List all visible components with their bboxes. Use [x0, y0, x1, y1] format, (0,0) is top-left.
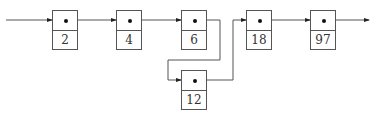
- pointer-dot-icon: [128, 19, 132, 23]
- pointer-dot-icon: [322, 19, 326, 23]
- node-value: 2: [53, 31, 77, 50]
- node-value: 4: [117, 31, 141, 50]
- node-value: 6: [182, 31, 206, 50]
- node-value: 97: [311, 31, 335, 50]
- list-node-97: 97: [310, 10, 336, 50]
- pointer-dot-icon: [193, 79, 197, 83]
- list-node-2: 2: [52, 10, 78, 50]
- list-node-18: 18: [246, 10, 272, 50]
- pointer-dot-icon: [193, 19, 197, 23]
- pointer-cell: [182, 11, 206, 31]
- pointer-cell: [182, 71, 206, 91]
- pointer-dot-icon: [258, 19, 262, 23]
- pointer-cell: [311, 11, 335, 31]
- pointer-cell: [117, 11, 141, 31]
- pointer-cell: [53, 11, 77, 31]
- node-value: 18: [247, 31, 271, 50]
- node-value: 12: [182, 91, 206, 110]
- list-node-4: 4: [116, 10, 142, 50]
- pointer-dot-icon: [64, 19, 68, 23]
- pointer-cell: [247, 11, 271, 31]
- list-node-6: 6: [181, 10, 207, 50]
- list-node-12: 12: [181, 70, 207, 110]
